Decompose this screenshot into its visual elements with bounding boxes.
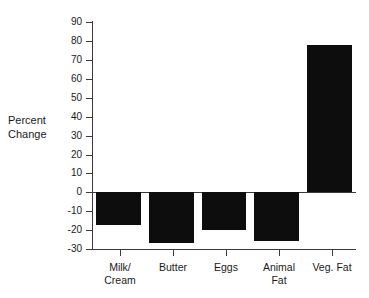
x-tick-mark [279, 250, 280, 256]
y-tick-label: 30 [56, 131, 82, 141]
y-tick-mark [86, 136, 92, 137]
bar-milk-cream [96, 192, 141, 225]
x-tick-mark [226, 250, 227, 256]
y-axis-line [92, 21, 93, 250]
bar-butter [149, 192, 194, 243]
y-tick-label: 60 [56, 74, 82, 84]
y-tick-label: -20 [56, 225, 82, 235]
y-tick-label: 70 [56, 55, 82, 65]
bar-eggs [202, 192, 247, 230]
y-tick-mark [86, 60, 92, 61]
x-tick-mark [120, 250, 121, 256]
y-tick-label: 90 [56, 17, 82, 27]
y-tick-label: 20 [56, 150, 82, 160]
y-tick-mark [86, 230, 92, 231]
x-tick-mark [173, 250, 174, 256]
y-tick-label: -10 [56, 206, 82, 216]
y-tick-label: 80 [56, 36, 82, 46]
bar-chart: Percent Change 90 80 70 60 50 40 30 20 1… [0, 0, 369, 298]
y-tick-mark [86, 41, 92, 42]
y-tick-mark [86, 98, 92, 99]
y-tick-label: -30 [56, 244, 82, 254]
y-tick-mark [86, 249, 92, 250]
y-tick-label: 10 [56, 168, 82, 178]
y-tick-mark [86, 192, 92, 193]
x-tick-mark [332, 250, 333, 256]
y-tick-mark [86, 155, 92, 156]
y-tick-label: 0 [56, 187, 82, 197]
x-axis-label-veg-fat: Veg. Fat [300, 261, 364, 274]
y-tick-mark [86, 79, 92, 80]
y-tick-mark [86, 211, 92, 212]
y-tick-label: 50 [56, 93, 82, 103]
bar-veg-fat [307, 45, 352, 193]
y-tick-label: 40 [56, 112, 82, 122]
y-tick-mark [86, 173, 92, 174]
x-axis-line [92, 249, 356, 250]
bar-animal-fat [254, 192, 299, 241]
y-tick-mark [86, 117, 92, 118]
y-tick-mark [86, 22, 92, 23]
